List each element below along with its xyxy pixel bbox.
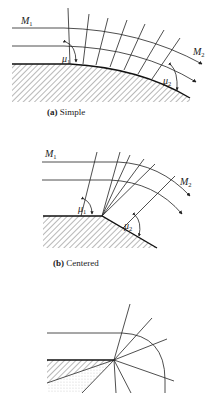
mach-line-last bbox=[123, 176, 175, 228]
panel-b-centered-wave: M1 M2 μ1 μ2 (b) Centered bbox=[42, 148, 192, 268]
mach-line bbox=[110, 20, 127, 67]
mach-line bbox=[68, 8, 70, 64]
label-mu1: μ1 bbox=[61, 53, 70, 65]
angle-arc-mu2 bbox=[135, 215, 140, 236]
label-mu2: μ2 bbox=[123, 220, 132, 232]
expansion-wave-figure: M1 M2 μ1 μ2 (a) Simple M1 M2 μ1 μ2 (b) C… bbox=[0, 0, 209, 393]
label-M2: M2 bbox=[192, 46, 205, 58]
panel-a-simple-wave: M1 M2 μ1 μ2 (a) Simple bbox=[12, 8, 205, 117]
angle-arc-mu2 bbox=[171, 65, 177, 90]
label-M1: M1 bbox=[44, 148, 57, 160]
mach-line bbox=[96, 18, 108, 65]
ray bbox=[114, 339, 167, 360]
fan-line bbox=[102, 159, 144, 216]
mach-line bbox=[124, 24, 145, 70]
fan-line bbox=[102, 155, 130, 216]
ray bbox=[114, 360, 116, 393]
panel-c-fan-detail bbox=[47, 304, 174, 393]
streamline-lower bbox=[42, 180, 182, 214]
mach-line bbox=[83, 14, 89, 64]
caption-b: (b) Centered bbox=[53, 258, 99, 268]
fan-line bbox=[102, 164, 155, 216]
caption-a: (a) Simple bbox=[47, 107, 85, 117]
label-mu2: μ2 bbox=[162, 75, 171, 87]
label-M1: M1 bbox=[20, 15, 33, 27]
label-mu1: μ1 bbox=[77, 203, 86, 215]
label-M2: M2 bbox=[179, 176, 192, 188]
